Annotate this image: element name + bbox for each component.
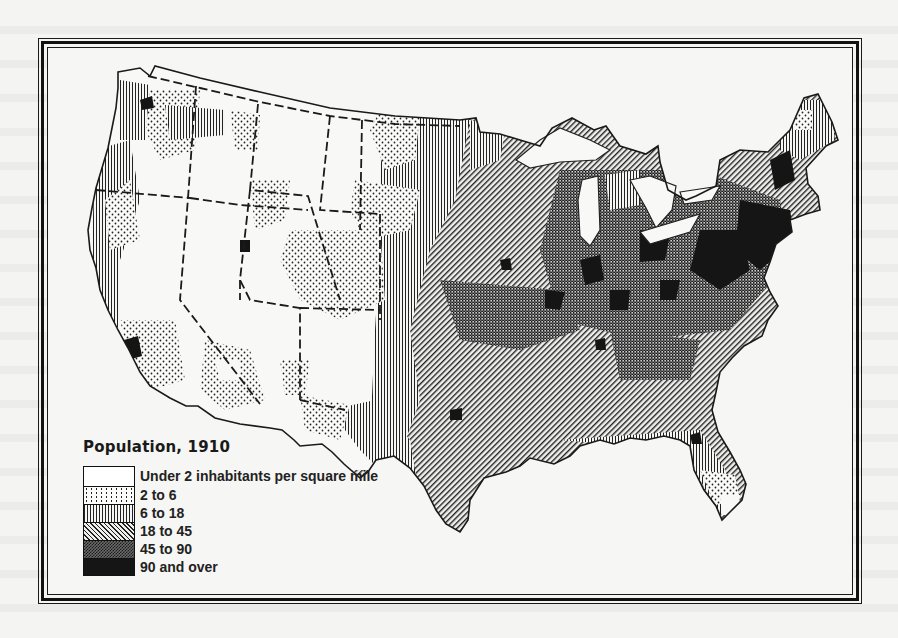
legend-swatch-crosshatch (83, 540, 135, 558)
legend-title: Population, 1910 (83, 438, 230, 456)
legend-swatch-dots (83, 486, 135, 504)
legend-swatch-blank (83, 466, 135, 486)
legend-label: 6 to 18 (140, 505, 184, 521)
legend-item-45-to-90: 45 to 90 (83, 540, 378, 558)
legend-label: 90 and over (140, 559, 218, 575)
legend-swatch-diagonal-lines (83, 522, 135, 540)
legend-item-2-to-6: 2 to 6 (83, 486, 378, 504)
legend-item-6-to-18: 6 to 18 (83, 504, 378, 522)
legend-label: 2 to 6 (140, 487, 177, 503)
legend: Under 2 inhabitants per square mile 2 to… (83, 466, 378, 576)
legend-label: Under 2 inhabitants per square mile (140, 468, 378, 484)
legend-swatch-vertical-lines (83, 504, 135, 522)
legend-item-under-2: Under 2 inhabitants per square mile (83, 466, 378, 486)
legend-label: 18 to 45 (140, 523, 192, 539)
legend-item-18-to-45: 18 to 45 (83, 522, 378, 540)
legend-swatch-solid (83, 558, 135, 576)
legend-label: 45 to 90 (140, 541, 192, 557)
legend-item-90-and-over: 90 and over (83, 558, 378, 576)
